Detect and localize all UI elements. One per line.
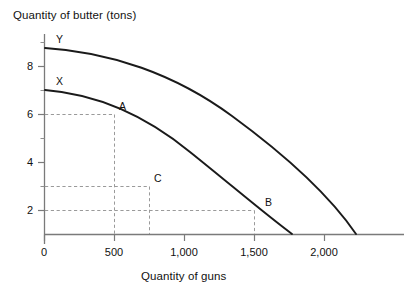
point-label-c: C (154, 172, 162, 184)
x-tick-label-1000: 1,000 (161, 246, 207, 258)
curve-label-y: Y (56, 33, 63, 45)
x-tick-label-1500: 1,500 (231, 246, 277, 258)
x-tick-label-2000: 2,000 (301, 246, 347, 258)
y-tick-label-4: 4 (11, 156, 33, 168)
x-tick-label-0: 0 (21, 246, 67, 258)
dashed-guides (45, 115, 255, 235)
point-label-b: B (265, 196, 272, 208)
y-tick-label-8: 8 (11, 60, 33, 72)
curve-label-x: X (56, 75, 63, 87)
y-tick-label-2: 2 (11, 204, 33, 216)
x-tick-label-500: 500 (91, 246, 137, 258)
ppf-chart: Quantity of butter (tons) Quantity of gu… (0, 0, 414, 299)
x-axis-ticks (45, 235, 325, 242)
point-label-a: A (119, 100, 126, 112)
x-axis-title: Quantity of guns (141, 270, 226, 282)
y-axis-title: Quantity of butter (tons) (13, 9, 136, 21)
curve-y-frontier (45, 48, 356, 234)
y-tick-label-6: 6 (11, 108, 33, 120)
